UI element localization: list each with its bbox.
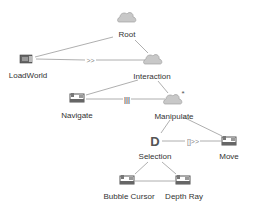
node-label-selection: Selection xyxy=(139,152,172,162)
node-label-navigate: Navigate xyxy=(61,111,93,121)
node-label-move: Move xyxy=(219,152,239,162)
edge-selection-depthray xyxy=(162,162,176,174)
node-label-bubble-cursor: Bubble Cursor xyxy=(103,192,154,202)
node-label-manipulate: Manipulate xyxy=(154,112,193,122)
interaction-icon-navigate[interactable] xyxy=(70,93,84,102)
decision-icon-selection[interactable]: D xyxy=(150,134,159,149)
edge-interaction-manipulate xyxy=(158,81,168,93)
cloud-icon-root[interactable] xyxy=(118,13,136,22)
iteration-badge: * xyxy=(181,89,184,98)
interaction-icon-depth-ray[interactable] xyxy=(176,175,190,184)
edge-loadworld-interaction xyxy=(36,59,85,60)
operator-enabling-info: []>> xyxy=(187,138,199,146)
node-label-interaction: Interaction xyxy=(133,72,170,82)
edges xyxy=(35,37,222,181)
cloud-icon-interaction[interactable] xyxy=(144,55,162,64)
interaction-icon-move[interactable] xyxy=(222,136,236,145)
node-label-root: Root xyxy=(119,30,136,40)
edge-interaction-navigate xyxy=(86,80,138,95)
operator-enabling: >> xyxy=(86,57,94,64)
interaction-icon-bubble-cursor[interactable] xyxy=(120,175,134,184)
node-label-depth-ray: Depth Ray xyxy=(165,192,203,202)
edge-root-loadworld xyxy=(35,37,113,57)
cloud-icon-manipulate[interactable] xyxy=(164,95,182,104)
edge-root-interaction xyxy=(135,40,148,53)
operator-concurrent: ||| xyxy=(124,96,130,104)
application-icon-loadworld[interactable] xyxy=(20,55,32,63)
edge-selection-bubblecursor xyxy=(135,162,148,174)
node-label-loadworld: LoadWorld xyxy=(9,71,48,81)
